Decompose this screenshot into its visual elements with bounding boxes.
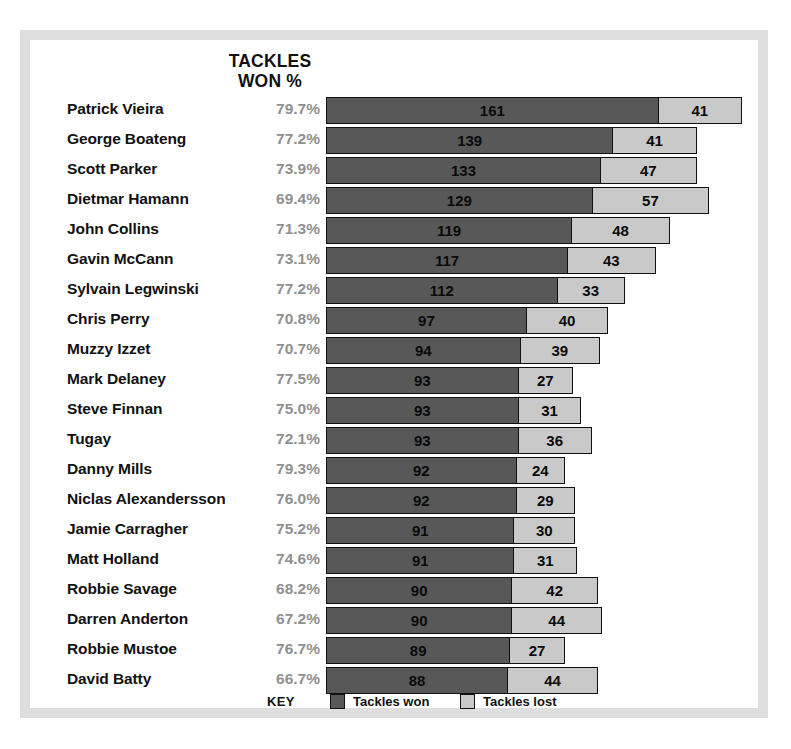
chart-row: Patrick Vieira79.7%16141 <box>30 96 758 126</box>
bar-segment-tackles-won: 92 <box>326 457 516 484</box>
tackles-won-percent: 66.7% <box>242 670 320 688</box>
chart-row: Steve Finnan75.0%9331 <box>30 396 758 426</box>
stacked-bar: 9439 <box>326 337 600 364</box>
bar-value-tackles-lost: 30 <box>536 523 553 538</box>
bar-value-tackles-won: 112 <box>430 283 454 298</box>
stacked-bar: 11233 <box>326 277 625 304</box>
chart-inner: TACKLES WON % Patrick Vieira79.7%16141Ge… <box>30 40 758 708</box>
bar-segment-tackles-won: 93 <box>326 367 518 394</box>
bar-value-tackles-lost: 39 <box>551 343 568 358</box>
bar-value-tackles-lost: 44 <box>544 673 561 688</box>
bar-value-tackles-won: 117 <box>435 253 459 268</box>
bar-value-tackles-lost: 47 <box>640 163 657 178</box>
bar-value-tackles-lost: 43 <box>603 253 620 268</box>
bar-value-tackles-lost: 29 <box>537 493 554 508</box>
stacked-bar: 9229 <box>326 487 575 514</box>
tackles-won-percent: 71.3% <box>242 220 320 238</box>
bar-segment-tackles-won: 133 <box>326 157 600 184</box>
tackles-won-percent: 77.2% <box>242 130 320 148</box>
column-header-line-2: WON % <box>210 72 330 92</box>
stacked-bar: 9130 <box>326 517 575 544</box>
bar-segment-tackles-lost: 24 <box>516 457 565 484</box>
bar-segment-tackles-won: 93 <box>326 397 518 424</box>
tackles-won-percent: 76.7% <box>242 640 320 658</box>
bar-value-tackles-won: 139 <box>457 133 482 148</box>
bar-segment-tackles-won: 90 <box>326 577 511 604</box>
bar-value-tackles-won: 93 <box>414 433 431 448</box>
column-header-tackles-won-pct: TACKLES WON % <box>210 52 330 91</box>
chart-row: Danny Mills79.3%9224 <box>30 456 758 486</box>
bar-value-tackles-lost: 27 <box>537 373 554 388</box>
bar-value-tackles-won: 129 <box>447 193 472 208</box>
chart-row: Robbie Mustoe76.7%8927 <box>30 636 758 666</box>
bar-value-tackles-won: 91 <box>412 523 429 538</box>
bar-value-tackles-won: 90 <box>411 613 428 628</box>
bar-value-tackles-won: 92 <box>413 493 430 508</box>
chart-row: Dietmar Hamann69.4%12957 <box>30 186 758 216</box>
bar-value-tackles-won: 161 <box>480 103 505 118</box>
bar-segment-tackles-won: 119 <box>326 217 571 244</box>
bar-segment-tackles-lost: 43 <box>567 247 656 274</box>
tackles-won-percent: 76.0% <box>242 490 320 508</box>
chart-frame: TACKLES WON % Patrick Vieira79.7%16141Ge… <box>20 30 768 718</box>
bar-segment-tackles-won: 94 <box>326 337 520 364</box>
tackles-won-percent: 70.8% <box>242 310 320 328</box>
bar-value-tackles-won: 93 <box>414 373 431 388</box>
bar-segment-tackles-won: 117 <box>326 247 567 274</box>
stacked-bar: 9740 <box>326 307 608 334</box>
bar-segment-tackles-lost: 47 <box>600 157 697 184</box>
chart-row: John Collins71.3%11948 <box>30 216 758 246</box>
legend-swatch-lost-icon <box>460 694 475 709</box>
stacked-bar: 8927 <box>326 637 565 664</box>
bar-segment-tackles-lost: 30 <box>513 517 575 544</box>
bar-value-tackles-won: 93 <box>414 403 431 418</box>
tackles-won-percent: 67.2% <box>242 610 320 628</box>
chart-row: Jamie Carragher75.2%9130 <box>30 516 758 546</box>
bar-segment-tackles-won: 91 <box>326 517 513 544</box>
bar-value-tackles-lost: 24 <box>532 463 549 478</box>
stacked-bar: 9224 <box>326 457 565 484</box>
bar-segment-tackles-lost: 31 <box>518 397 582 424</box>
stacked-bar: 11743 <box>326 247 656 274</box>
bar-segment-tackles-lost: 57 <box>592 187 709 214</box>
legend-item-tackles-won: Tackles won <box>330 694 429 709</box>
bar-value-tackles-won: 90 <box>411 583 428 598</box>
bar-value-tackles-lost: 27 <box>529 643 546 658</box>
bar-value-tackles-won: 97 <box>418 313 435 328</box>
bar-segment-tackles-won: 112 <box>326 277 557 304</box>
chart-row: Mark Delaney77.5%9327 <box>30 366 758 396</box>
chart-page: TACKLES WON % Patrick Vieira79.7%16141Ge… <box>0 0 791 749</box>
legend-item-tackles-lost: Tackles lost <box>460 694 556 709</box>
chart-row: Muzzy Izzet70.7%9439 <box>30 336 758 366</box>
bar-segment-tackles-won: 92 <box>326 487 516 514</box>
tackles-won-percent: 73.9% <box>242 160 320 178</box>
bar-value-tackles-won: 119 <box>437 223 461 238</box>
stacked-bar: 11948 <box>326 217 670 244</box>
chart-row: Robbie Savage68.2%9042 <box>30 576 758 606</box>
bar-value-tackles-lost: 33 <box>582 283 599 298</box>
tackles-won-percent: 75.0% <box>242 400 320 418</box>
column-header-line-1: TACKLES <box>210 52 330 72</box>
chart-row: Niclas Alexandersson76.0%9229 <box>30 486 758 516</box>
chart-row: Scott Parker73.9%13347 <box>30 156 758 186</box>
chart-row: Sylvain Legwinski77.2%11233 <box>30 276 758 306</box>
legend-label-tackles-won: Tackles won <box>353 694 429 709</box>
bar-segment-tackles-lost: 41 <box>612 127 696 154</box>
bar-segment-tackles-won: 129 <box>326 187 592 214</box>
bar-segment-tackles-won: 89 <box>326 637 509 664</box>
bar-segment-tackles-won: 93 <box>326 427 518 454</box>
bar-value-tackles-lost: 40 <box>559 313 576 328</box>
bar-segment-tackles-won: 139 <box>326 127 612 154</box>
tackles-won-percent: 74.6% <box>242 550 320 568</box>
stacked-bar: 9327 <box>326 367 573 394</box>
stacked-bar: 13941 <box>326 127 697 154</box>
bar-value-tackles-won: 92 <box>413 463 430 478</box>
stacked-bar: 9336 <box>326 427 592 454</box>
bar-segment-tackles-lost: 33 <box>557 277 625 304</box>
chart-rows: Patrick Vieira79.7%16141George Boateng77… <box>30 96 758 696</box>
bar-segment-tackles-lost: 41 <box>658 97 742 124</box>
bar-value-tackles-lost: 41 <box>692 103 709 118</box>
tackles-won-percent: 75.2% <box>242 520 320 538</box>
stacked-bar: 9131 <box>326 547 577 574</box>
tackles-won-percent: 70.7% <box>242 340 320 358</box>
